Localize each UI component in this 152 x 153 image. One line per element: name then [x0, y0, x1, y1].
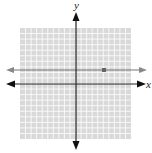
x-axis-label: x — [145, 78, 151, 90]
plotted-point — [102, 68, 106, 72]
arrow-right-icon — [139, 67, 147, 73]
arrow-left-icon — [6, 67, 14, 73]
coordinate-plane: x y — [0, 0, 152, 153]
y-axis-arrow-down-icon — [73, 141, 80, 150]
y-axis-arrow-up-icon — [73, 12, 80, 21]
x-axis-arrow-right-icon — [137, 81, 146, 88]
y-axis-label: y — [73, 0, 79, 11]
x-axis-arrow-left-icon — [6, 81, 15, 88]
